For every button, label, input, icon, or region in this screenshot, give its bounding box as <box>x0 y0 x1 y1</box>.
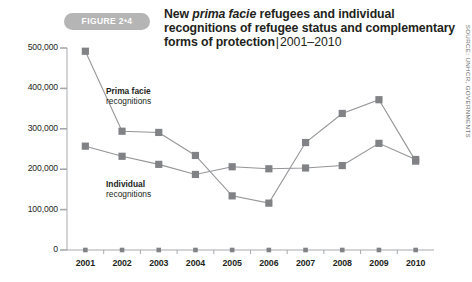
y-axis-tick-label: 300,000 <box>12 123 58 133</box>
data-point-marker <box>192 171 199 178</box>
series-label-prima-facie: Prima facie recognitions <box>106 87 151 106</box>
x-axis-tick-marker <box>413 248 418 253</box>
data-point-marker <box>302 139 309 146</box>
x-axis-tick-label: 2004 <box>175 258 215 268</box>
y-axis-tick-label: 400,000 <box>12 82 58 92</box>
x-axis-ticks <box>83 248 418 254</box>
x-axis-tick-label: 2003 <box>139 258 179 268</box>
data-point-marker <box>82 48 89 55</box>
data-point-marker <box>192 152 199 159</box>
y-axis-tick-label: 500,000 <box>12 42 58 52</box>
x-axis-tick-label: 2005 <box>212 258 252 268</box>
data-point-marker <box>302 164 309 171</box>
x-axis-tick-marker <box>267 248 272 253</box>
series-line-2 <box>85 143 415 174</box>
x-axis-tick-label: 2008 <box>322 258 362 268</box>
data-point-marker <box>265 165 272 172</box>
x-axis-tick-label: 2007 <box>286 258 326 268</box>
y-axis-tick-label: 0 <box>12 244 58 254</box>
x-axis-tick-marker <box>193 248 198 253</box>
data-point-marker <box>155 161 162 168</box>
x-axis-tick-marker <box>156 248 161 253</box>
x-axis-tick-marker <box>120 248 125 253</box>
data-point-marker <box>375 96 382 103</box>
data-point-marker <box>155 129 162 136</box>
x-axis-tick-marker <box>377 248 382 253</box>
data-point-marker <box>412 156 419 163</box>
y-axis-tick-label: 100,000 <box>12 204 58 214</box>
x-axis-tick-marker <box>303 248 308 253</box>
data-point-marker <box>265 200 272 207</box>
data-point-marker <box>229 192 236 199</box>
x-axis-tick-marker <box>340 248 345 253</box>
data-point-marker <box>118 128 125 135</box>
x-axis-tick-label: 2002 <box>102 258 142 268</box>
data-point-marker <box>339 110 346 117</box>
x-axis-tick-marker <box>230 248 235 253</box>
x-axis-tick-label: 2001 <box>65 258 105 268</box>
data-point-marker <box>118 153 125 160</box>
series-label-individual: Individual recognitions <box>106 180 151 199</box>
x-axis-tick-label: 2009 <box>359 258 399 268</box>
x-axis-tick-label: 2006 <box>249 258 289 268</box>
x-axis-tick-marker <box>83 248 88 253</box>
data-point-marker <box>375 140 382 147</box>
data-point-marker <box>339 162 346 169</box>
series-label-individual-line2: recognitions <box>106 190 151 200</box>
y-axis-tick-label: 200,000 <box>12 163 58 173</box>
series-label-prima-line2: recognitions <box>106 97 151 107</box>
data-point-marker <box>229 163 236 170</box>
data-point-marker <box>82 143 89 150</box>
x-axis-tick-label: 2010 <box>396 258 436 268</box>
source-note: SOURCE: UNHCR, GOVERNMENTS <box>465 25 472 138</box>
y-axis-ticks <box>60 48 67 250</box>
